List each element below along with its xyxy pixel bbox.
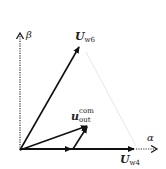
vector-u-out-com [20, 126, 87, 150]
vector-U-w6 [20, 47, 79, 150]
label-u-out-com: u [71, 110, 79, 123]
beta-label: β [25, 29, 32, 40]
space-vector-diagram: β α Uw6 Uw4 u com out [0, 0, 166, 169]
label-U-w6: Uw6 [75, 30, 96, 44]
label-u-out-com-sub: out [79, 116, 91, 124]
alpha-label: α [147, 132, 154, 143]
label-U-w4: Uw4 [120, 153, 141, 167]
label-u-out-com-sup: com [79, 107, 94, 115]
hexagon-edge-guide [86, 52, 136, 146]
